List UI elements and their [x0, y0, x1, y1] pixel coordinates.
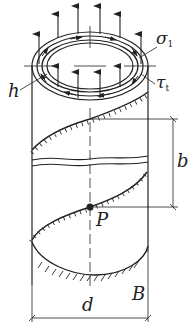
- diameter-label: d: [82, 296, 94, 314]
- support-hatch: [38, 259, 140, 281]
- point-p: [87, 204, 94, 211]
- shear-flow-arrows: [41, 37, 138, 96]
- pitch-dimension: [90, 116, 178, 210]
- sigma-leader: [139, 47, 157, 58]
- h-leader: [20, 74, 47, 90]
- tau-label: τt: [156, 74, 169, 93]
- axial-stress-arrows: [39, 6, 141, 98]
- pitch-label: b: [177, 152, 189, 170]
- point-p-label: P: [96, 211, 108, 229]
- cylinder-diagram: [0, 0, 195, 330]
- thickness-label: h: [8, 82, 20, 100]
- sigma-label: σ1: [156, 30, 173, 49]
- support-label: B: [132, 285, 145, 303]
